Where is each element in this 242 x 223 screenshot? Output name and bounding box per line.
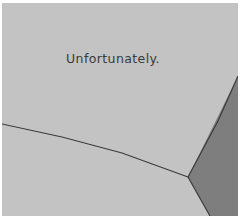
comic-panel: Unfortunately. [2,3,238,216]
caption-text: Unfortunately. [2,51,224,66]
floor-line [2,124,188,177]
scene-drawing [2,3,238,216]
dark-wall-shape [188,76,238,216]
